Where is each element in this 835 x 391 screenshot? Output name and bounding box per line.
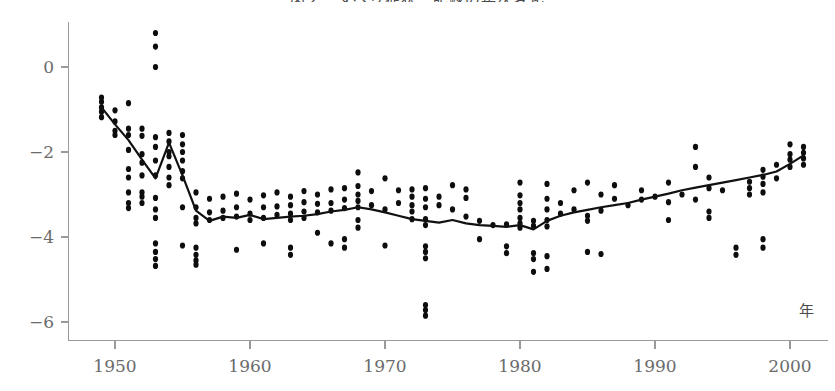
data-point (126, 100, 131, 106)
data-point (396, 200, 401, 206)
data-point (301, 199, 306, 205)
data-point (409, 202, 414, 208)
data-point (166, 153, 171, 159)
data-point (571, 187, 576, 193)
data-point (436, 202, 441, 208)
data-point (544, 253, 549, 259)
data-point (598, 191, 603, 197)
data-point (234, 191, 239, 197)
data-point (409, 208, 414, 214)
data-point (342, 185, 347, 191)
data-point (612, 182, 617, 188)
data-point (787, 141, 792, 147)
data-point (477, 218, 482, 224)
data-point (315, 191, 320, 197)
data-point (342, 197, 347, 203)
data-point (544, 223, 549, 229)
y-tick-label: −2 (29, 142, 54, 162)
data-point (517, 192, 522, 198)
data-point (153, 144, 158, 150)
data-point (180, 149, 185, 155)
data-point (126, 147, 131, 153)
data-point (760, 167, 765, 173)
data-point (153, 206, 158, 212)
data-point (409, 194, 414, 200)
data-point (220, 208, 225, 214)
x-tick-label: 1970 (363, 356, 406, 376)
data-point (747, 179, 752, 185)
x-tick-label: 1960 (228, 356, 271, 376)
data-point (544, 206, 549, 212)
data-point (693, 197, 698, 203)
data-point (693, 144, 698, 150)
data-point (693, 164, 698, 170)
data-point (288, 202, 293, 208)
data-point (531, 256, 536, 262)
y-tick-label: −4 (29, 227, 54, 247)
data-point (153, 256, 158, 262)
x-tick-label: 1980 (498, 356, 541, 376)
data-point (166, 130, 171, 136)
data-point (166, 174, 171, 180)
data-point (436, 194, 441, 200)
y-tick-label: 0 (43, 57, 54, 77)
data-point (193, 245, 198, 251)
data-point (153, 240, 158, 246)
data-point (153, 30, 158, 36)
data-point (180, 242, 185, 248)
data-point (369, 202, 374, 208)
data-point (355, 217, 360, 223)
data-point (423, 196, 428, 202)
data-point (153, 249, 158, 255)
data-point (139, 194, 144, 200)
data-point (544, 196, 549, 202)
data-point (544, 181, 549, 187)
data-point (517, 200, 522, 206)
data-point (288, 245, 293, 251)
data-point (193, 252, 198, 258)
data-point (666, 217, 671, 223)
data-point (180, 132, 185, 138)
data-point (760, 245, 765, 251)
data-point (355, 225, 360, 231)
data-point (544, 266, 549, 272)
data-point (139, 133, 144, 139)
data-point (423, 249, 428, 255)
data-point (342, 236, 347, 242)
data-point (598, 251, 603, 257)
data-point (328, 186, 333, 192)
data-point (180, 157, 185, 163)
x-tick-label: 1990 (633, 356, 676, 376)
data-point (261, 192, 266, 198)
data-point (733, 252, 738, 258)
data-point (504, 250, 509, 256)
data-point (139, 200, 144, 206)
data-point (787, 151, 792, 157)
data-point (180, 141, 185, 147)
data-point (112, 107, 117, 113)
data-point (679, 191, 684, 197)
data-point (355, 198, 360, 204)
data-point (207, 196, 212, 202)
data-point (126, 205, 131, 211)
data-point (220, 194, 225, 200)
data-point (423, 313, 428, 319)
data-point (369, 188, 374, 194)
data-point (166, 182, 171, 188)
data-point (247, 217, 252, 223)
data-point (801, 162, 806, 168)
data-point (423, 243, 428, 249)
data-point (423, 204, 428, 210)
data-point (126, 174, 131, 180)
data-point (153, 134, 158, 140)
data-point (315, 230, 320, 236)
data-point (126, 126, 131, 132)
data-point (234, 247, 239, 253)
data-point (153, 64, 158, 70)
data-point (585, 218, 590, 224)
data-point (531, 250, 536, 256)
data-point-group (99, 30, 806, 319)
data-point (423, 185, 428, 191)
data-point (153, 157, 158, 163)
data-point (126, 189, 131, 195)
